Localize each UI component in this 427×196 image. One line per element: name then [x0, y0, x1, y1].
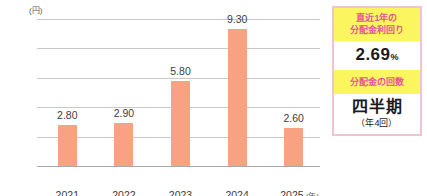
- info-panel: 直近1年の 分配金利回り 2.69% 分配金の回数 四半期 （年4回）: [332, 6, 422, 136]
- yield-heading-line1: 直近1年の: [356, 13, 397, 23]
- chart-page: (円) 0.002.004.006.008.0010.00 2.802.905.…: [0, 0, 427, 196]
- frequency-sub-value: （年4回）: [334, 117, 420, 129]
- x-axis-tick-label: 2024: [207, 189, 267, 196]
- x-axis-tick-label: 2023: [151, 189, 211, 196]
- frequency-heading: 分配金の回数: [334, 70, 420, 94]
- yield-unit: %: [391, 52, 399, 62]
- bar: [284, 128, 303, 166]
- distribution-bar-chart: (円) 0.002.004.006.008.0010.00 2.802.905.…: [0, 0, 325, 196]
- frequency-value-row: 四半期 （年4回）: [334, 94, 420, 134]
- bar: [58, 125, 77, 166]
- gridline: [37, 166, 320, 167]
- frequency-value: 四半期: [334, 97, 420, 116]
- yield-value-row: 2.69%: [334, 41, 420, 70]
- gridline: [37, 19, 320, 20]
- x-axis-unit-label: (年): [304, 192, 320, 196]
- x-axis-tick-label: 2021: [37, 189, 97, 196]
- x-axis-tick-label: 2022: [94, 189, 154, 196]
- bar-value-label: 9.30: [214, 13, 260, 25]
- plot-area: 0.002.004.006.008.0010.00 2.802.905.809.…: [37, 19, 320, 166]
- bar-value-label: 2.60: [271, 112, 317, 124]
- bar: [114, 123, 133, 166]
- bar-value-label: 5.80: [158, 65, 204, 77]
- bar: [171, 81, 190, 166]
- bar-value-label: 2.80: [44, 109, 90, 121]
- yield-heading: 直近1年の 分配金利回り: [334, 8, 420, 41]
- bar: [228, 29, 247, 166]
- gridline: [37, 78, 320, 79]
- yield-heading-line2: 分配金利回り: [336, 24, 418, 36]
- y-axis-unit-label: (円): [29, 4, 42, 15]
- x-axis-tick-label: 2025 (年): [270, 189, 330, 196]
- yield-value: 2.69: [355, 45, 390, 64]
- bar-value-label: 2.90: [101, 107, 147, 119]
- gridline: [37, 48, 320, 49]
